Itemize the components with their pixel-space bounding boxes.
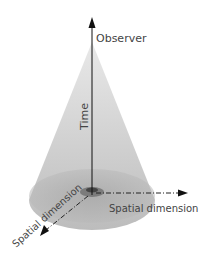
light-cone-diagram: Observer Time Spatial dimension Spatial …	[0, 0, 203, 260]
time-axis-arrow-icon	[89, 17, 96, 28]
spatial-x-label: Spatial dimension	[109, 203, 198, 214]
spatial-axis-x-arrow-icon	[178, 190, 188, 197]
time-axis-label: Time	[78, 103, 91, 131]
observer-label: Observer	[96, 32, 147, 45]
